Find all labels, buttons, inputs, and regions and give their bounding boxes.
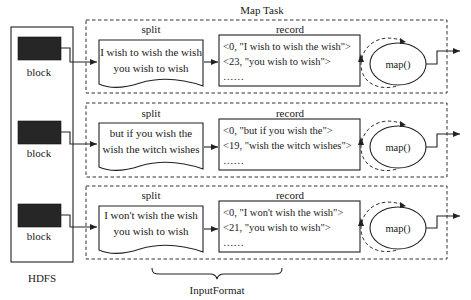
record-entry: …… bbox=[223, 155, 244, 166]
hdfs-block bbox=[18, 204, 61, 227]
input-format-label: InputFormat bbox=[190, 284, 245, 296]
hdfs-label: HDFS bbox=[28, 272, 56, 284]
record-entry: <23, "you wish to wish"> bbox=[223, 56, 331, 67]
split-line: I won't wish the wish bbox=[104, 209, 198, 221]
split-title: split bbox=[142, 23, 161, 35]
block-label: block bbox=[27, 230, 52, 242]
record-entry: <19, "wish the witch wishes"> bbox=[223, 140, 352, 151]
record-title: record bbox=[276, 189, 305, 201]
block-to-split-arrow bbox=[61, 48, 97, 62]
map-function-label: map() bbox=[385, 223, 411, 235]
block-to-split-arrow bbox=[61, 215, 97, 227]
record-title: record bbox=[276, 107, 305, 119]
loop-arrow-up-icon bbox=[358, 218, 364, 226]
record-entry: …… bbox=[223, 71, 244, 82]
block-label: block bbox=[27, 66, 52, 78]
map-output-arrow bbox=[426, 51, 460, 64]
split-line: but if you wish the bbox=[110, 127, 193, 139]
record-entry: <0, "but if you wish the"> bbox=[223, 125, 333, 136]
split-line: wish the witch wishes bbox=[103, 143, 200, 155]
block-to-split-arrow bbox=[61, 132, 97, 144]
split-line: you wish to wish bbox=[114, 225, 189, 237]
map-task-title: Map Task bbox=[240, 4, 284, 16]
map-task-row-2: block split but if you wish the wish the… bbox=[18, 103, 460, 177]
record-title: record bbox=[276, 23, 305, 35]
mapreduce-input-diagram: Map Task HDFS block split I wish to wish… bbox=[0, 0, 471, 300]
input-format-brace bbox=[152, 268, 282, 279]
map-task-row-3: block split I won't wish the wish you wi… bbox=[18, 186, 460, 259]
record-entry: <0, "I won't wish the wish"> bbox=[223, 207, 343, 218]
loop-arrow-up-icon bbox=[358, 54, 364, 62]
map-function-label: map() bbox=[385, 59, 411, 71]
hdfs-block bbox=[18, 121, 61, 144]
block-label: block bbox=[27, 147, 52, 159]
loop-arrow-up-icon bbox=[358, 137, 364, 145]
hdfs-block bbox=[18, 37, 61, 60]
split-title: split bbox=[142, 189, 161, 201]
map-task-row-1: block split I wish to wish the wish you … bbox=[18, 20, 460, 93]
record-entry: <0, "I wish to wish the wish"> bbox=[223, 41, 351, 52]
map-function-label: map() bbox=[385, 142, 411, 154]
map-output-arrow bbox=[426, 216, 460, 228]
map-output-arrow bbox=[426, 134, 460, 147]
record-entry: <21, "you wish to wish"> bbox=[223, 222, 331, 233]
record-entry: …… bbox=[223, 237, 244, 248]
split-line: you wish to wish bbox=[114, 62, 189, 74]
split-title: split bbox=[142, 107, 161, 119]
split-line: I wish to wish the wish bbox=[100, 46, 202, 58]
